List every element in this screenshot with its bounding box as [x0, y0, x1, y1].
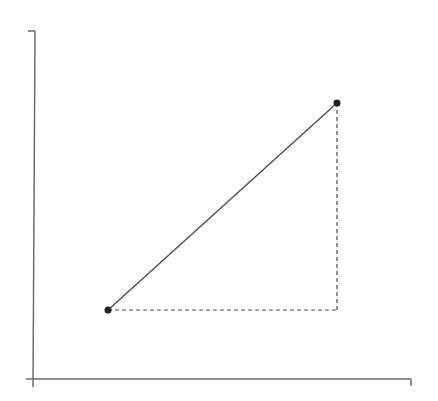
y-axis: [33, 31, 35, 387]
point-a: [105, 307, 112, 314]
diagram-canvas: [0, 0, 438, 401]
point-b: [334, 100, 341, 107]
slope-triangle-diagram: [0, 0, 438, 401]
hypotenuse-segment: [108, 103, 337, 310]
